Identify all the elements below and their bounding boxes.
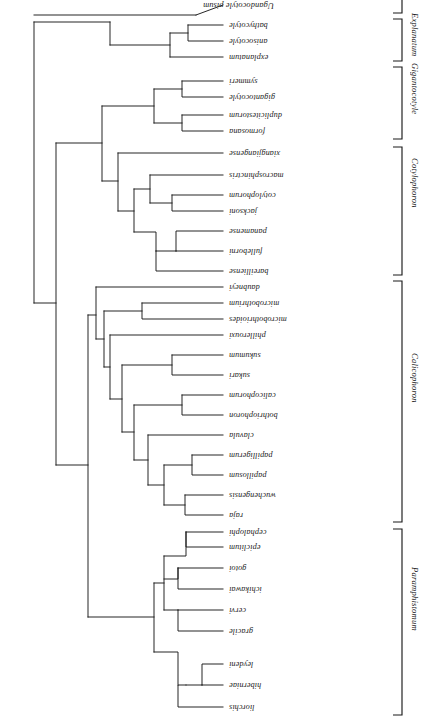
taxon-label-panamense: panamense (229, 227, 267, 236)
taxon-label-cotylophorum: cotylophorum (229, 191, 276, 200)
taxon-label-explanatum: explanatum (229, 53, 268, 62)
taxon-label-papilligerum: papilligerum (229, 451, 273, 460)
taxon-label-papillosum: papillosum (229, 471, 266, 480)
bracket-outgroup (393, 0, 402, 13)
taxon-label-ugandocotyle-pisum: Ugandocotyle pisum (203, 1, 274, 10)
taxon-label-ichikawai: ichikawai (229, 585, 262, 594)
bracket-cotylophoron (393, 147, 402, 275)
genus-label-calicophoron: Calicophoron (410, 353, 420, 449)
genus-label-explanatum: Explanatum (410, 13, 420, 67)
taxon-label-wuchengensis: wuchengensis (229, 491, 276, 500)
phylogenetic-tree-figure: liorchis hiberniae leydeni gracile cervi… (0, 0, 440, 727)
taxon-label-cervi: cervi (229, 606, 246, 615)
bracket-calicophoron (393, 281, 402, 522)
taxon-label-bareilliense: bareilliense (229, 267, 269, 276)
taxon-label-epiclitum: epiclitum (229, 543, 260, 552)
taxon-label-duplicitestorum: duplicitestorum (229, 111, 282, 120)
taxon-label-daubneyi: daubneyi (229, 283, 260, 292)
bracket-paramphistomum (393, 529, 402, 715)
taxon-label-calicophorum: calicophorum (229, 391, 276, 400)
taxon-label-gigantocotyle: gigantocotyle (229, 93, 275, 102)
taxon-label-sukumum: sukumum (229, 351, 261, 360)
taxon-label-symmeri: symmeri (229, 77, 257, 86)
taxon-label-macrosphinctris: macrosphinctris (229, 171, 283, 180)
taxon-label-formosana: formosana (229, 127, 265, 136)
taxon-label-gracile: gracile (229, 627, 253, 636)
taxon-label-microbothrioides: microbothrioides (229, 315, 287, 324)
bracket-explanatum (393, 19, 402, 61)
taxon-label-leydeni: leydeni (229, 660, 253, 669)
taxon-label-bothriophoron: bothriophoron (229, 411, 278, 420)
taxon-label-hiberniae: hiberniae (229, 681, 261, 690)
tree-branch-lines (0, 0, 440, 727)
genus-label-gigantocotyle: Gigantocotyle (410, 63, 420, 141)
taxon-label-fulleborni: fulleborni (229, 247, 262, 256)
taxon-label-clavula: clavula (229, 431, 254, 440)
taxon-label-bathycotyle: bathycotyle (229, 21, 268, 30)
taxon-label-liorchis: liorchis (229, 703, 255, 712)
bracket-gigantocotyle (393, 67, 402, 139)
taxon-label-gotoi: gotoi (229, 564, 246, 573)
taxon-label-phillerouxi: phillerouxi (229, 331, 266, 340)
taxon-label-jacksoni: jacksoni (229, 207, 257, 216)
taxon-label-anisocotyle: anisocotyle (229, 37, 267, 46)
taxon-label-xiangjiangense: xiangjiangense (229, 149, 280, 158)
genus-label-paramphistomum: Paramphistomum (410, 567, 420, 677)
taxon-label-sukari: sukari (229, 371, 250, 380)
taxon-label-cephalophi: cephalophi (229, 528, 266, 537)
taxon-label-microbothrium: microbothrium (229, 299, 279, 308)
taxon-label-raja: raja (229, 511, 243, 520)
genus-label-cotylophoron: Cotylophoron (410, 158, 420, 254)
